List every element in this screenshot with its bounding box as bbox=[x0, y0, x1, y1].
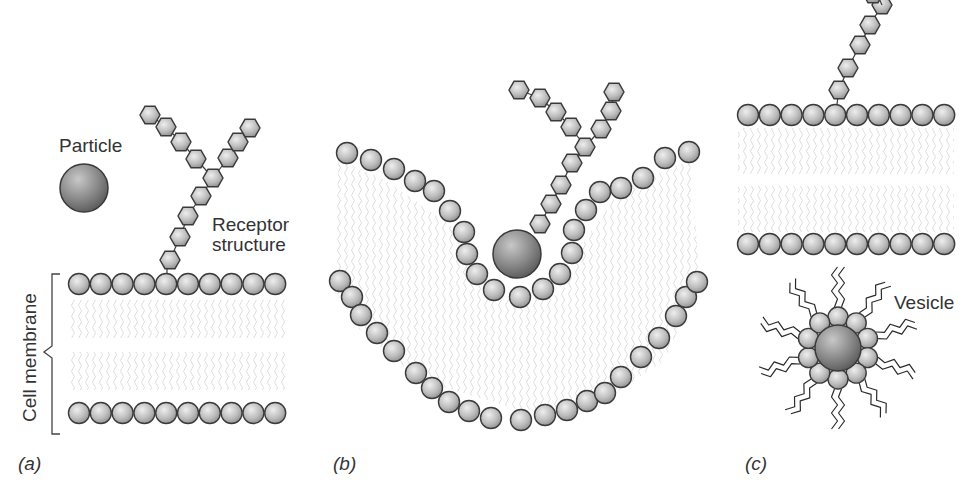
sugar-unit bbox=[171, 133, 191, 150]
panel-b bbox=[330, 81, 708, 430]
phospholipid-head bbox=[595, 383, 616, 404]
sugar-unit bbox=[178, 207, 198, 224]
sugar-unit bbox=[562, 154, 582, 171]
phospholipid-head bbox=[467, 264, 488, 285]
receptor-label-line1: Receptor bbox=[212, 215, 289, 235]
lipid-tails-lower bbox=[68, 352, 286, 390]
sugar-unit bbox=[860, 16, 880, 33]
phospholipid-head bbox=[649, 328, 670, 349]
phospholipid-head bbox=[384, 341, 405, 362]
phospholipid-head bbox=[459, 401, 480, 422]
engulfed-particle bbox=[815, 325, 861, 371]
phospholipid-head bbox=[564, 220, 585, 241]
phospholipid-head bbox=[156, 274, 177, 295]
phospholipid-head bbox=[631, 347, 652, 368]
fatty-acid-tail bbox=[832, 267, 838, 307]
phospholipid-head bbox=[679, 142, 700, 163]
phospholipid-head bbox=[781, 105, 802, 126]
phospholipid-head bbox=[481, 408, 502, 429]
phospholipid-head bbox=[868, 105, 889, 126]
phospholipid-head bbox=[112, 274, 133, 295]
phospholipid-head bbox=[511, 410, 532, 431]
phospholipid-head bbox=[221, 403, 242, 424]
phospholipid-head bbox=[781, 234, 802, 255]
phospholipid-head bbox=[890, 105, 911, 126]
lipid-tails-invaginated bbox=[335, 160, 700, 410]
membrane-bracket-icon bbox=[44, 274, 60, 434]
sugar-unit bbox=[591, 120, 611, 137]
phospholipid-head bbox=[440, 201, 461, 222]
membrane-inner-row bbox=[69, 403, 286, 424]
membrane-outer-row bbox=[738, 105, 955, 126]
sugar-unit bbox=[551, 176, 571, 193]
phospholipid-head bbox=[484, 280, 505, 301]
fatty-acid-tail bbox=[763, 317, 800, 332]
sugar-unit bbox=[838, 59, 858, 76]
phospholipid-head bbox=[243, 274, 264, 295]
fatty-acid-tail bbox=[865, 286, 891, 317]
particle bbox=[60, 164, 108, 212]
phospholipid-head bbox=[361, 150, 382, 171]
fatty-acid-tail bbox=[878, 357, 915, 372]
sugar-unit bbox=[530, 215, 550, 232]
phospholipid-head bbox=[890, 234, 911, 255]
sugar-unit bbox=[218, 149, 238, 166]
panel-label-c: (c) bbox=[745, 453, 767, 475]
sugar-unit bbox=[509, 81, 529, 98]
sugar-unit bbox=[530, 89, 550, 106]
phospholipid-head bbox=[868, 234, 889, 255]
phospholipid-head bbox=[666, 306, 687, 327]
receptor-structure bbox=[829, 0, 892, 104]
sugar-unit bbox=[191, 187, 211, 204]
phospholipid-head bbox=[825, 105, 846, 126]
phospholipid-head bbox=[828, 307, 848, 327]
panel-c bbox=[738, 0, 955, 429]
phospholipid-head bbox=[611, 367, 632, 388]
phospholipid-head bbox=[633, 168, 654, 189]
phospholipid-head bbox=[112, 403, 133, 424]
sugar-unit bbox=[829, 81, 849, 98]
sugar-unit bbox=[601, 102, 621, 119]
panel-label-a: (a) bbox=[18, 453, 41, 475]
phospholipid-head bbox=[825, 234, 846, 255]
phospholipid-head bbox=[337, 143, 358, 164]
sugar-unit bbox=[156, 118, 176, 135]
phospholipid-head bbox=[134, 274, 155, 295]
sugar-unit bbox=[546, 103, 566, 120]
fatty-acid-tail bbox=[839, 267, 845, 307]
sugar-unit bbox=[240, 119, 260, 136]
phospholipid-head bbox=[69, 403, 90, 424]
fatty-acid-tail bbox=[832, 389, 838, 429]
phospholipid-head bbox=[384, 159, 405, 180]
phospholipid-head bbox=[847, 105, 868, 126]
phospholipid-head bbox=[221, 274, 242, 295]
phospholipid-head bbox=[90, 403, 111, 424]
cell-membrane-label: Cell membrane bbox=[20, 293, 40, 422]
phospholipid-head bbox=[199, 274, 220, 295]
phospholipid-head bbox=[562, 243, 583, 264]
lipid-tails-upper bbox=[738, 128, 954, 174]
phospholipid-head bbox=[557, 400, 578, 421]
sugar-unit bbox=[604, 83, 624, 100]
phospholipid-head bbox=[156, 403, 177, 424]
sugar-unit bbox=[170, 228, 190, 245]
sugar-unit bbox=[160, 251, 180, 268]
phospholipid-head bbox=[134, 403, 155, 424]
phospholipid-head bbox=[738, 105, 759, 126]
sugar-unit bbox=[850, 36, 870, 53]
lipid-tails-upper bbox=[68, 300, 286, 338]
phospholipid-head bbox=[405, 171, 426, 192]
phospholipid-head bbox=[803, 105, 824, 126]
fatty-acid-tail bbox=[785, 379, 811, 410]
phospholipid-head bbox=[422, 378, 443, 399]
phospholipid-head bbox=[590, 182, 611, 203]
membrane-outer-row bbox=[69, 274, 286, 295]
phospholipid-head bbox=[687, 272, 708, 293]
particle-bound bbox=[493, 230, 541, 278]
phospholipid-head bbox=[738, 234, 759, 255]
sugar-unit bbox=[561, 118, 581, 135]
phospholipid-head bbox=[912, 234, 933, 255]
fatty-acid-tail bbox=[790, 283, 811, 317]
phospholipid-head bbox=[550, 264, 571, 285]
receptor-label-line2: structure bbox=[212, 235, 286, 255]
